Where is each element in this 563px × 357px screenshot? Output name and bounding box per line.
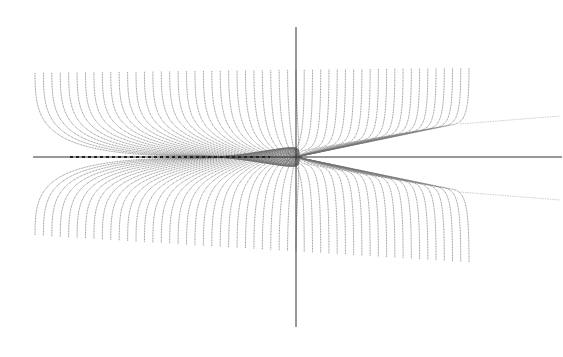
trajectory-curve — [60, 73, 299, 160]
trajectory-curve — [296, 68, 444, 157]
trajectory-plot — [0, 0, 563, 357]
trajectory-curve — [296, 70, 321, 157]
trajectory-curve — [296, 157, 453, 261]
trajectory-curve — [94, 72, 299, 163]
trajectory-curve — [77, 73, 299, 162]
trajectory-curve — [296, 68, 453, 157]
trajectory-curve — [296, 157, 354, 255]
trajectory-curves — [35, 68, 469, 262]
trajectory-curve — [296, 157, 337, 254]
trajectory-curve — [296, 157, 469, 262]
trajectory-curve — [52, 155, 299, 236]
trajectory-curve — [296, 69, 387, 157]
trajectory-curve — [288, 156, 297, 250]
extension-line — [460, 192, 560, 200]
trajectory-curve — [296, 69, 378, 157]
trajectory-curve — [296, 157, 387, 257]
trajectory-curve — [296, 68, 469, 157]
trajectory-curve — [296, 68, 428, 157]
extension-lines — [460, 116, 560, 200]
trajectory-curve — [296, 68, 436, 157]
trajectory-curve — [296, 70, 337, 157]
trajectory-curve — [296, 157, 403, 258]
extension-line — [460, 116, 560, 124]
trajectory-curve — [296, 157, 321, 253]
trajectory-curve — [286, 70, 304, 157]
trajectory-curve — [288, 70, 297, 158]
trajectory-curve — [52, 73, 299, 159]
trajectory-curve — [286, 157, 304, 252]
trajectory-curve — [102, 72, 298, 163]
trajectory-curve — [296, 69, 395, 157]
